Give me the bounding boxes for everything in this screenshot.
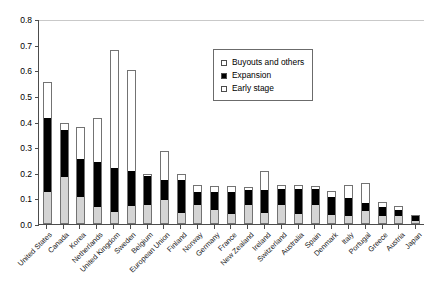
legend-swatch-icon [221,86,227,92]
bar-slot [106,20,123,224]
x-axis-label-slot: New Zealand [239,229,256,299]
x-axis-tick-label: Japan [403,231,423,251]
bar-segment-expansion [327,197,336,215]
x-axis-label-slot: European Union [155,229,172,299]
bar-slot [407,20,424,224]
bar-segment-early-stage [294,214,303,224]
stacked-bar [76,127,85,224]
bar-segment-expansion [227,192,236,215]
y-axis-tick-label: 0.8 [6,16,32,25]
x-axis-label-slot: Norway [189,229,206,299]
bar-segment-buyouts [361,183,370,203]
stacked-bar [93,118,102,224]
x-axis-label-slot: Austria [390,229,407,299]
stacked-bar [327,191,336,224]
bar-segment-buyouts [93,118,102,163]
bar-segment-early-stage [110,212,119,224]
stacked-bar [394,206,403,224]
bar-segment-expansion [344,198,353,217]
x-axis-label-slot: Denmark [323,229,340,299]
stacked-bar [378,202,387,224]
x-axis-label-slot: Spain [307,229,324,299]
bar-segment-early-stage [43,192,52,224]
bar-segment-expansion [361,203,370,211]
bar-segment-early-stage [160,200,169,224]
bar-slot [390,20,407,224]
bar-segment-expansion [378,207,387,216]
bar-segment-early-stage [311,205,320,224]
bar-segment-buyouts [160,151,169,180]
bar-segment-early-stage [60,177,69,224]
legend-item-label: Buyouts and others [232,58,304,67]
bar-segment-expansion [76,159,85,197]
bar-segment-expansion [260,190,269,213]
x-axis-label-slot: Italy [340,229,357,299]
bar-slot [323,20,340,224]
bar-segment-expansion [244,190,253,205]
stacked-bar [411,215,420,224]
bar-segment-buyouts [110,50,119,168]
bar-segment-buyouts [43,82,52,118]
bar-slot [374,20,391,224]
x-axis-label-slot: Japan [407,229,424,299]
stacked-bar [210,186,219,224]
stacked-bar [127,70,136,224]
stacked-bar [294,185,303,224]
y-axis-tick-label: 0.7 [6,42,32,51]
bar-segment-early-stage [411,221,420,224]
bar-segment-expansion [43,118,52,192]
y-axis-tick-label: 0.0 [6,221,32,230]
bar-segment-expansion [277,189,286,205]
bar-segment-expansion [210,192,219,210]
bar-segment-expansion [177,180,186,213]
bar-segment-buyouts [344,185,353,198]
bar-slot [89,20,106,224]
stacked-bar [193,185,202,224]
bar-segment-expansion [193,192,202,205]
bar-slot [156,20,173,224]
x-axis-label-slot: United States [38,229,55,299]
bar-segment-expansion [127,171,136,206]
bar-slot [56,20,73,224]
y-axis-tick-label: 0.6 [6,67,32,76]
bar-segment-buyouts [260,171,269,190]
bar-segment-early-stage [227,214,236,224]
bar-segment-early-stage [244,205,253,224]
bar-segment-early-stage [177,213,186,224]
bar-segment-expansion [294,189,303,213]
venture-capital-investment-chart: 0.00.10.20.30.40.50.60.70.8 United State… [0,0,436,299]
bar-segment-expansion [143,176,152,205]
stacked-bar [260,171,269,224]
x-axis-label-slot: Canada [55,229,72,299]
stacked-bar [43,82,52,224]
bar-slot [123,20,140,224]
bar-segment-buyouts [193,185,202,192]
bar-segment-early-stage [76,197,85,224]
chart-legend: Buyouts and othersExpansionEarly stage [213,49,313,101]
stacked-bar [344,185,353,224]
legend-swatch-icon [221,60,227,66]
stacked-bar [160,151,169,224]
y-axis-tick-label: 0.1 [6,195,32,204]
bar-segment-early-stage [344,216,353,224]
bar-segment-early-stage [143,205,152,224]
bar-segment-buyouts [60,123,69,131]
bar-segment-expansion [93,162,102,206]
x-axis-label-slot: United Kingdom [105,229,122,299]
y-axis-tick-label: 0.4 [6,119,32,128]
bar-segment-early-stage [260,213,269,224]
legend-swatch-icon [221,73,227,79]
x-axis-labels: United StatesCanadaKoreaNetherlandsUnite… [38,229,424,299]
x-axis-label-slot: Germany [206,229,223,299]
stacked-bar [110,50,119,224]
legend-item-label: Early stage [232,84,274,93]
stacked-bar [361,183,370,224]
y-axis-tick-label: 0.2 [6,170,32,179]
stacked-bar [277,185,286,224]
bar-slot [139,20,156,224]
bar-segment-early-stage [378,216,387,224]
bar-slot [190,20,207,224]
bar-segment-early-stage [193,205,202,224]
stacked-bar [60,123,69,224]
legend-item: Expansion [221,71,304,80]
